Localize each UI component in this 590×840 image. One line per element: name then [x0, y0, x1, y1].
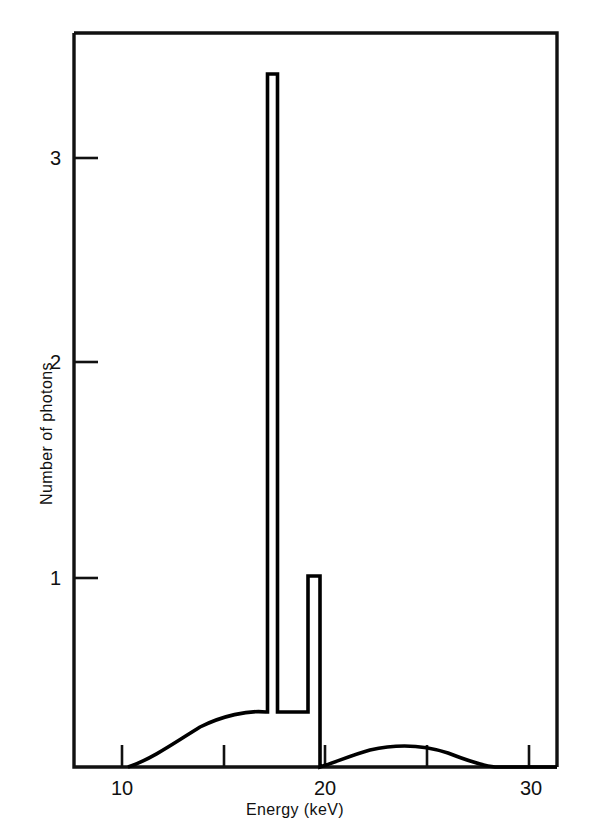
y-axis-ticks — [74, 158, 98, 578]
x-tick-label-30: 30 — [520, 777, 542, 800]
chart-figure: 10 20 30 3 2 1 Energy (keV) Number of ph… — [0, 0, 590, 840]
x-tick-label-10: 10 — [111, 777, 133, 800]
spectrum-plot — [0, 0, 590, 840]
x-tick-label-20: 20 — [314, 777, 336, 800]
x-axis-title: Energy (keV) — [0, 801, 590, 819]
plot-frame — [74, 33, 557, 767]
spectrum-curve — [128, 74, 557, 767]
y-axis-title: Number of photons — [38, 362, 56, 505]
y-tick-label-1: 1 — [50, 567, 61, 590]
y-tick-label-3: 3 — [50, 147, 61, 170]
